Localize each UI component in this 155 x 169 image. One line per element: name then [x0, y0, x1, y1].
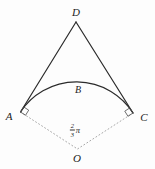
label-O: O	[73, 153, 81, 164]
label-A: A	[6, 111, 13, 122]
central-angle-label: 2 3 π	[70, 123, 80, 138]
label-C: C	[140, 112, 147, 123]
segment-CO-dotted	[78, 113, 134, 149]
geometry-figure: D B A C O 2 3 π	[0, 0, 155, 169]
label-B: B	[75, 85, 81, 95]
angle-fraction-denominator: 3	[71, 131, 74, 138]
angle-fraction-numerator: 2	[71, 123, 74, 130]
label-D: D	[72, 7, 80, 18]
segment-CD	[76, 22, 133, 113]
segment-AD	[21, 22, 77, 112]
angle-fraction: 2 3	[70, 123, 75, 138]
pi-symbol: π	[76, 126, 80, 135]
